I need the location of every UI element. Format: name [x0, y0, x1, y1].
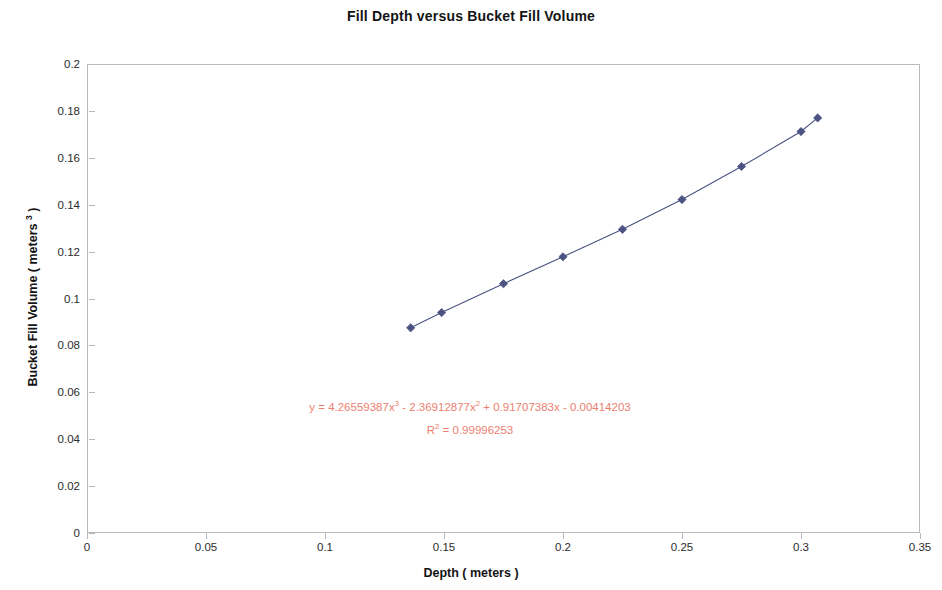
data-point-marker — [737, 162, 745, 170]
trendline-r-squared: R2 = 0.99996253 — [150, 417, 790, 440]
y-axis-tick-label: 0.14 — [10, 199, 80, 211]
y-axis-tick-mark — [89, 533, 95, 534]
y-axis-tick-mark — [89, 64, 95, 65]
equation-term-linear-constant: + 0.91707383x - 0.00414203 — [480, 401, 631, 413]
y-axis-tick-mark — [89, 486, 95, 487]
x-axis-tick-mark — [325, 533, 326, 539]
x-axis-tick-mark — [206, 533, 207, 539]
y-axis-tick-mark — [89, 439, 95, 440]
r-squared-symbol: R — [427, 424, 435, 436]
y-axis-tick-label: 0.06 — [10, 386, 80, 398]
y-axis-tick-label: 0.04 — [10, 433, 80, 445]
y-axis-tick-label: 0 — [10, 527, 80, 539]
x-axis-tick-mark — [801, 533, 802, 539]
data-series-line-and-markers — [407, 114, 822, 332]
y-axis-title-superscript: 3 — [24, 215, 34, 220]
x-axis-tick-label: 0.25 — [671, 541, 693, 553]
equation-term-quadratic: - 2.36912877x — [399, 401, 476, 413]
x-axis-tick-label: 0.1 — [317, 541, 333, 553]
y-axis-tick-labels: 00.020.040.060.080.10.120.140.160.180.2 — [8, 0, 80, 590]
equation-term-cubic: y = 4.26559387x — [309, 401, 394, 413]
y-axis-tick-label: 0.18 — [10, 105, 80, 117]
y-axis-tick-mark — [89, 205, 95, 206]
data-point-marker — [678, 195, 686, 203]
x-axis-tick-mark — [87, 533, 88, 539]
y-axis-tick-label: 0.12 — [10, 246, 80, 258]
r-squared-value: = 0.99996253 — [439, 424, 513, 436]
y-axis-tick-mark — [89, 158, 95, 159]
trendline-annotation: y = 4.26559387x3 - 2.36912877x2 + 0.9170… — [150, 394, 790, 440]
series-line — [411, 118, 818, 328]
x-axis-tick-mark — [563, 533, 564, 539]
data-point-marker — [618, 225, 626, 233]
x-axis-tick-mark — [920, 533, 921, 539]
chart-plot-svg — [87, 64, 920, 533]
x-axis-tick-label: 0.2 — [555, 541, 571, 553]
data-point-marker — [438, 308, 446, 316]
y-axis-tick-label: 0.08 — [10, 339, 80, 351]
trendline-equation: y = 4.26559387x3 - 2.36912877x2 + 0.9170… — [150, 394, 790, 417]
y-axis-tick-label: 0.16 — [10, 152, 80, 164]
y-axis-title-post: ) — [26, 208, 40, 216]
y-axis-tick-mark — [89, 345, 95, 346]
x-axis-tick-label: 0.15 — [433, 541, 455, 553]
x-axis-tick-label: 0.3 — [793, 541, 809, 553]
chart-title: Fill Depth versus Bucket Fill Volume — [0, 8, 942, 24]
x-axis-tick-label: 0.05 — [195, 541, 217, 553]
x-axis-tick-label: 0 — [84, 541, 90, 553]
y-axis-tick-mark — [89, 252, 95, 253]
data-point-marker — [559, 253, 567, 261]
data-point-marker — [407, 324, 415, 332]
y-axis-tick-label: 0.02 — [10, 480, 80, 492]
y-axis-tick-mark — [89, 299, 95, 300]
y-axis-tick-label: 0.2 — [10, 58, 80, 70]
y-axis-tick-mark — [89, 392, 95, 393]
data-point-marker — [499, 280, 507, 288]
y-axis-title: Bucket Fill Volume ( meters 3 ) — [24, 147, 40, 447]
y-axis-tick-label: 0.1 — [10, 293, 80, 305]
x-axis-tick-mark — [682, 533, 683, 539]
x-axis-tick-mark — [444, 533, 445, 539]
y-axis-title-pre: Bucket Fill Volume ( meters — [26, 220, 40, 386]
y-axis-tick-mark — [89, 111, 95, 112]
x-axis-tick-label: 0.35 — [909, 541, 931, 553]
x-axis-title: Depth ( meters ) — [0, 566, 942, 580]
